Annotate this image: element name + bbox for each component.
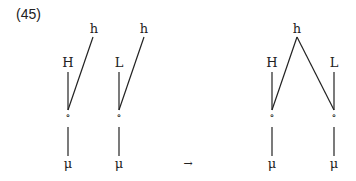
upper-h-label: h: [140, 21, 149, 36]
mora-label: μ: [330, 156, 338, 171]
autosegmental-diagram: h H ∘ μ h L ∘ μ → h H L ∘ ∘ μ μ: [0, 0, 356, 181]
tone-h-label: H: [266, 55, 277, 70]
mora-label: μ: [115, 156, 123, 171]
node-symbol: ∘: [66, 110, 71, 121]
tone-h-label: H: [62, 55, 73, 70]
node-symbol: ∘: [270, 110, 275, 121]
arrow-icon: →: [183, 157, 192, 170]
node-symbol: ∘: [332, 110, 337, 121]
association-line: [272, 37, 297, 110]
mora-label: μ: [268, 156, 276, 171]
mora-label: μ: [64, 156, 72, 171]
node-symbol: ∘: [117, 110, 122, 121]
association-line: [297, 37, 334, 110]
diagram-right: h H L ∘ ∘ μ μ: [266, 21, 338, 171]
diagram-left-2: h L ∘ μ: [115, 21, 149, 171]
association-line: [68, 37, 93, 110]
tone-l-label: L: [115, 55, 124, 70]
upper-h-label: h: [293, 21, 302, 36]
tone-l-label: L: [330, 55, 339, 70]
upper-h-label: h: [90, 21, 99, 36]
diagram-left-1: h H ∘ μ: [62, 21, 98, 171]
association-line: [119, 37, 144, 110]
